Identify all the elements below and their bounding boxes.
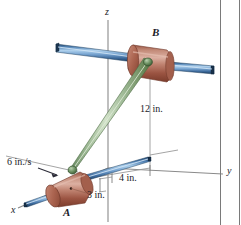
dimension-3in: 3 in. — [87, 190, 105, 200]
connecting-link-ab — [68, 58, 152, 172]
figure-drawing — [0, 0, 241, 225]
right-border-rule-outer — [239, 0, 240, 225]
velocity-arrow-shaft — [38, 168, 57, 175]
pin-joint-b — [144, 58, 153, 66]
collar-b-far-cap — [166, 51, 175, 80]
velocity-arrow — [38, 168, 59, 178]
guide-rod-b-right-cap — [211, 66, 214, 74]
dimension-12in: 12 in. — [140, 104, 163, 114]
guide-rod-b-left-body — [56, 44, 134, 62]
guide-rod-a-right-body — [82, 157, 151, 181]
construction-lines — [6, 64, 178, 192]
tick-3in-upper — [99, 177, 112, 179]
mechanics-figure: z y x B A 12 in. 4 in. 3 in. 6 in./s — [0, 0, 241, 225]
connecting-link-highlight — [73, 61, 148, 169]
y-axis-label: y — [227, 166, 231, 176]
right-border-rule-inner — [220, 0, 221, 225]
point-label-a: A — [63, 207, 70, 218]
guide-rod-a-right-highlight — [84, 159, 148, 178]
z-axis-label: z — [105, 7, 109, 17]
point-label-b: B — [152, 27, 159, 38]
pin-joint-a — [68, 166, 77, 174]
ground-line-right — [150, 150, 178, 155]
guide-rod-a-right-cap — [148, 157, 151, 161]
velocity-label: 6 in./s — [7, 157, 31, 167]
x-axis-label: x — [11, 205, 15, 215]
dimension-4in: 4 in. — [119, 173, 137, 183]
